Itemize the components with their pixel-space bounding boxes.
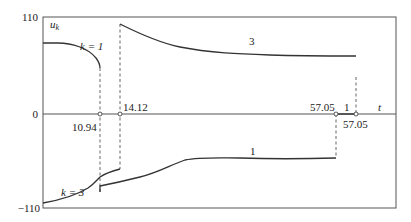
annotation-k3: k = 3 [61,186,85,198]
annotation-k1: k = 1 [80,40,103,52]
annotation-curve-3: 3 [249,35,255,47]
annotation-curve-1: 1 [250,145,256,157]
y-tick-110: 110 [22,11,39,23]
curve-3 [120,24,356,56]
label-t-57-05-left: 57.05 [310,101,335,113]
y-tick-0: 0 [33,108,39,120]
y-axis-label: uk [50,18,60,32]
point-57-05-upper [354,112,358,116]
label-t-14-12: 14.12 [123,101,148,113]
point-10-94 [98,112,102,116]
x-axis-label: t [378,101,382,113]
point-14-12 [118,112,122,116]
label-t-10-94: 10.94 [72,121,97,133]
label-upper-end-mark: 1 [344,101,350,113]
curve-1 [100,158,336,192]
chart: 110 0 −110 uk t 10.94 14.12 57.05 1 57.0… [0,0,411,222]
y-tick-neg110: −110 [18,202,41,214]
label-t-57-05-right: 57.05 [343,118,368,130]
